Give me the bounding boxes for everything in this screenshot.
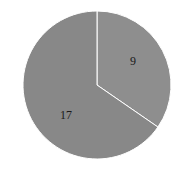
slice-label-17: 17	[60, 108, 72, 122]
pie-chart: 9 17	[0, 0, 188, 176]
slice-label-9: 9	[130, 54, 136, 68]
